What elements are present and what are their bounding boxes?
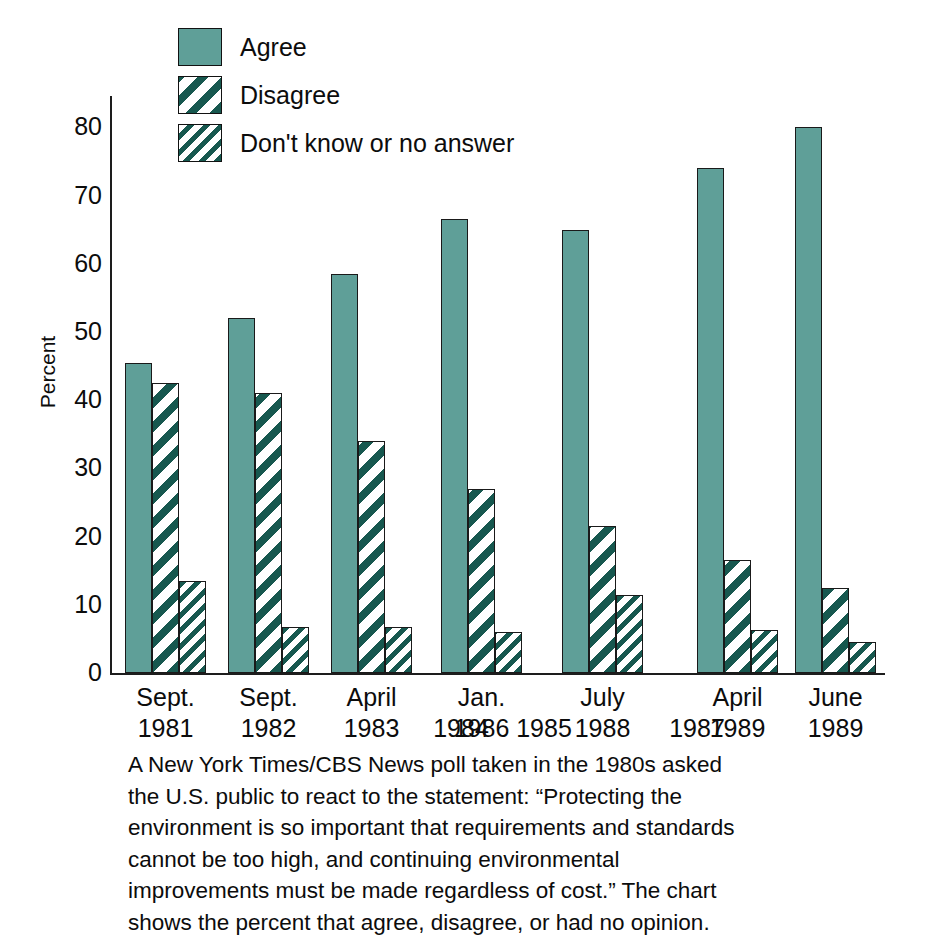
bar (751, 630, 778, 673)
bar (849, 642, 876, 673)
x-tick-label: July1988 (543, 682, 663, 744)
x-tick-label: Jan.1986 (422, 682, 542, 744)
x-tick-month: Jan. (422, 682, 542, 713)
bar (228, 318, 255, 673)
x-tick-month: Sept. (106, 682, 226, 713)
caption-line: improvements must be made regardless of … (128, 875, 768, 907)
x-tick-label: Sept.1981 (106, 682, 226, 744)
x-tick-month: Sept. (209, 682, 329, 713)
x-tick-label: Sept.1982 (209, 682, 329, 744)
bar (468, 489, 495, 673)
x-axis-ticks: Sept.1981Sept.1982April198319841985Jan.1… (0, 682, 938, 752)
x-tick-month: July (543, 682, 663, 713)
bar (795, 127, 822, 673)
x-tick-label: June1989 (776, 682, 896, 744)
x-tick-year: 1989 (776, 713, 896, 744)
bar (589, 526, 616, 673)
bar (358, 441, 385, 673)
bar (822, 588, 849, 673)
x-tick-year: 1986 (422, 713, 542, 744)
x-tick-year: 1982 (209, 713, 329, 744)
bars-layer (0, 0, 938, 700)
x-tick-month: June (776, 682, 896, 713)
bar (282, 627, 309, 673)
caption-line: environment is so important that require… (128, 812, 768, 844)
chart-caption: A New York Times/CBS News poll taken in … (128, 749, 768, 938)
caption-line: shows the percent that agree, disagree, … (128, 907, 768, 938)
bar (562, 230, 589, 673)
bar (724, 560, 751, 673)
bar (125, 363, 152, 673)
bar (616, 595, 643, 673)
bar (385, 627, 412, 673)
bar (255, 393, 282, 673)
bar (495, 632, 522, 673)
bar (441, 219, 468, 673)
x-tick-year: 1988 (543, 713, 663, 744)
caption-line: A New York Times/CBS News poll taken in … (128, 749, 768, 781)
caption-line: the U.S. public to react to the statemen… (128, 781, 768, 813)
caption-line: cannot be too high, and continuing envir… (128, 844, 768, 876)
x-tick-year: 1981 (106, 713, 226, 744)
bar (152, 383, 179, 673)
bar (331, 274, 358, 673)
bar (697, 168, 724, 673)
plot-area: 80706050403020100 Percent Sept.1981Sept.… (0, 0, 938, 700)
bar (179, 581, 206, 673)
